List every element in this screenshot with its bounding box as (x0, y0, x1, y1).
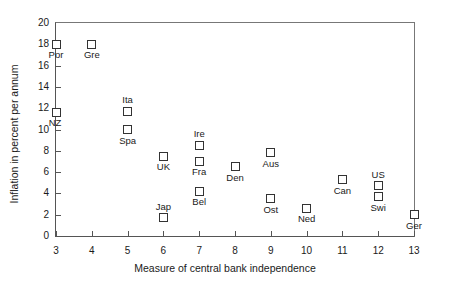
data-point-marker (266, 194, 275, 203)
data-point-marker (123, 125, 132, 134)
y-axis-tick-label: 10 (38, 125, 49, 135)
data-point-marker (302, 204, 311, 213)
y-axis-tick-label: 14 (38, 82, 49, 92)
y-axis-tick (56, 87, 61, 88)
x-axis-tick-label: 4 (89, 246, 95, 256)
y-axis-tick-label: 4 (43, 188, 49, 198)
data-point-label: Jap (156, 202, 171, 212)
data-point-marker (195, 141, 204, 150)
data-point-marker (159, 213, 168, 222)
data-point-label: Den (226, 173, 243, 183)
x-axis-title: Measure of central bank independence (0, 262, 450, 274)
plot-area: 34567891011121302468101214161820PorNZGre… (55, 22, 415, 237)
data-point-marker (266, 148, 275, 157)
data-point-label: Aus (263, 159, 279, 169)
x-axis-tick-label: 12 (373, 246, 384, 256)
scatter-chart-figure: 34567891011121302468101214161820PorNZGre… (0, 0, 450, 290)
x-axis-tick (56, 231, 57, 236)
x-axis-tick (342, 231, 343, 236)
data-point-marker (87, 40, 96, 49)
data-point-label: Swi (371, 203, 386, 213)
y-axis-tick-label: 12 (38, 103, 49, 113)
data-point-label: Bel (192, 197, 206, 207)
x-axis-tick (307, 231, 308, 236)
data-point-marker (52, 40, 61, 49)
y-axis-tick (56, 193, 61, 194)
x-axis-tick (199, 231, 200, 236)
x-axis-tick-label: 6 (161, 246, 167, 256)
data-point-marker (195, 157, 204, 166)
data-point-label: UK (157, 162, 170, 172)
data-point-marker (231, 162, 240, 171)
data-point-label: NZ (49, 118, 62, 128)
data-point-label: Por (49, 50, 64, 60)
x-axis-tick-label: 8 (232, 246, 238, 256)
data-point-label: Ger (406, 221, 422, 231)
x-axis-tick-label: 3 (53, 246, 59, 256)
data-point-marker (410, 210, 419, 219)
data-point-marker (159, 152, 168, 161)
x-axis-tick (378, 231, 379, 236)
data-point-marker (195, 187, 204, 196)
data-point-label: Can (334, 186, 351, 196)
x-axis-tick-label: 10 (301, 246, 312, 256)
data-point-label: Fra (192, 167, 206, 177)
y-axis-tick-label: 8 (43, 146, 49, 156)
x-axis-tick (128, 231, 129, 236)
y-axis-tick-label: 20 (38, 18, 49, 28)
y-axis-tick-label: 16 (38, 61, 49, 71)
x-axis-tick-label: 11 (337, 246, 347, 256)
y-axis-tick-label: 2 (43, 210, 49, 220)
y-axis-tick-label: 6 (43, 167, 49, 177)
data-point-marker (374, 192, 383, 201)
x-axis-tick-label: 13 (408, 246, 419, 256)
y-axis-title: Inflation in percent per annum (8, 24, 20, 244)
data-point-label: Ita (122, 95, 133, 105)
y-axis-tick-label: 0 (43, 231, 49, 241)
data-point-marker (374, 181, 383, 190)
data-point-marker (338, 175, 347, 184)
data-point-label: Ost (263, 205, 278, 215)
y-axis-tick (56, 172, 61, 173)
data-point-marker (123, 107, 132, 116)
y-axis-tick (56, 130, 61, 131)
data-point-label: Spa (119, 136, 136, 146)
data-point-marker (52, 108, 61, 117)
x-axis-tick-label: 9 (268, 246, 274, 256)
data-point-label: Ned (298, 214, 315, 224)
x-axis-tick (235, 231, 236, 236)
x-axis-tick-label: 7 (196, 246, 202, 256)
y-axis-tick (56, 151, 61, 152)
x-axis-tick (414, 231, 415, 236)
y-axis-tick-label: 18 (38, 39, 49, 49)
y-axis-tick (56, 66, 61, 67)
x-axis-tick (92, 231, 93, 236)
data-point-label: Ire (194, 129, 205, 139)
y-axis-tick (56, 215, 61, 216)
x-axis-tick (271, 231, 272, 236)
x-axis-tick (163, 231, 164, 236)
data-point-label: US (372, 170, 385, 180)
x-axis-tick-label: 5 (125, 246, 131, 256)
data-point-label: Gre (84, 50, 100, 60)
